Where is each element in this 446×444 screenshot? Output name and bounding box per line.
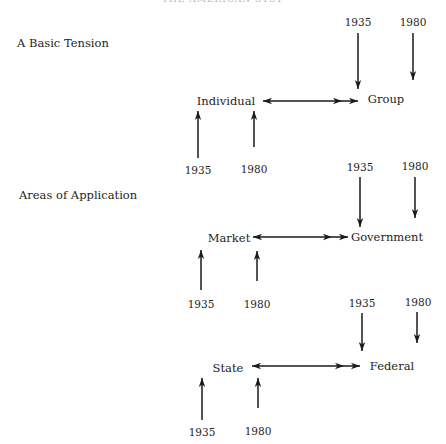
year-label-bottom-1935: 1935 (188, 298, 215, 310)
year-label-bottom-1935: 1935 (189, 426, 216, 438)
section-title-basic-tension: A Basic Tension (17, 36, 109, 50)
year-label-top-1980: 1980 (400, 16, 427, 28)
year-label-top-1935: 1935 (345, 16, 372, 28)
year-label-bottom-1980: 1980 (245, 425, 272, 437)
year-label-top-1935: 1935 (349, 297, 376, 309)
year-label-top-1980: 1980 (405, 296, 432, 308)
node-group: Group (368, 92, 404, 106)
year-label-top-1980: 1980 (402, 160, 429, 172)
node-market: Market (208, 231, 251, 245)
year-label-bottom-1980: 1980 (244, 298, 271, 310)
year-label-top-1935: 1935 (347, 161, 374, 173)
section-title-areas-of-application: Areas of Application (19, 188, 137, 202)
node-federal: Federal (370, 359, 414, 373)
node-individual: Individual (197, 94, 255, 108)
year-label-bottom-1935: 1935 (185, 164, 212, 176)
node-state: State (213, 361, 244, 375)
arrow-layer (0, 0, 446, 444)
year-label-bottom-1980: 1980 (241, 163, 268, 175)
node-government: Government (351, 230, 423, 244)
diagram-page: THE AMERICAN SYSTEM A Basic Tension Indi… (0, 0, 446, 444)
